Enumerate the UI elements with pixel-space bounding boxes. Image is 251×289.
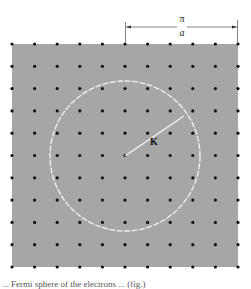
lattice-point: [214, 132, 217, 135]
lattice-point: [78, 243, 81, 246]
lattice-point: [169, 176, 172, 179]
lattice-point: [101, 176, 104, 179]
lattice-point: [236, 199, 239, 202]
lattice-point: [214, 42, 217, 45]
lattice-point: [101, 199, 104, 202]
lattice-point: [191, 199, 194, 202]
lattice-point: [78, 221, 81, 224]
lattice-point: [236, 221, 239, 224]
lattice-point: [33, 199, 36, 202]
lattice-point: [214, 65, 217, 68]
lattice-point: [78, 132, 81, 135]
lattice-point: [78, 199, 81, 202]
lattice-point: [123, 265, 126, 268]
lattice-point: [236, 109, 239, 112]
lattice-point: [78, 176, 81, 179]
lattice-point: [169, 42, 172, 45]
lattice-point: [191, 221, 194, 224]
lattice-point: [214, 87, 217, 90]
dimension-numerator: π: [176, 13, 188, 24]
lattice-point: [146, 87, 149, 90]
lattice-point: [10, 221, 13, 224]
lattice-point: [33, 176, 36, 179]
lattice-point: [169, 154, 172, 157]
lattice-point: [146, 199, 149, 202]
lattice-point: [236, 132, 239, 135]
lattice-point: [10, 132, 13, 135]
lattice-point: [146, 176, 149, 179]
lattice-point: [78, 87, 81, 90]
lattice-point: [191, 154, 194, 157]
lattice-point: [169, 87, 172, 90]
lattice-point: [146, 109, 149, 112]
lattice-point: [56, 243, 59, 246]
lattice-point: [146, 265, 149, 268]
lattice-point: [123, 243, 126, 246]
lattice-point: [169, 243, 172, 246]
lattice-point: [56, 221, 59, 224]
lattice-point: [56, 265, 59, 268]
lattice-point: [123, 176, 126, 179]
lattice-point: [56, 109, 59, 112]
lattice-point: [78, 65, 81, 68]
lattice-point: [169, 199, 172, 202]
lattice-point: [101, 87, 104, 90]
lattice-point: [123, 42, 126, 45]
lattice-point: [214, 154, 217, 157]
lattice-point: [56, 132, 59, 135]
lattice-point: [146, 132, 149, 135]
lattice-point: [78, 42, 81, 45]
lattice-point: [101, 109, 104, 112]
lattice-point: [236, 42, 239, 45]
lattice-point: [10, 65, 13, 68]
lattice-point: [123, 109, 126, 112]
lattice-point: [10, 154, 13, 157]
lattice-point: [191, 132, 194, 135]
lattice-point: [101, 65, 104, 68]
lattice-point: [123, 87, 126, 90]
lattice-point: [191, 87, 194, 90]
lattice-point: [10, 265, 13, 268]
lattice-point: [191, 243, 194, 246]
lattice-point: [33, 87, 36, 90]
lattice-point: [101, 42, 104, 45]
lattice-point: [101, 265, 104, 268]
lattice-point: [56, 176, 59, 179]
lattice-point: [123, 132, 126, 135]
lattice-point: [10, 87, 13, 90]
lattice-point: [10, 176, 13, 179]
lattice-point: [169, 221, 172, 224]
lattice-point: [33, 265, 36, 268]
lattice-point: [33, 109, 36, 112]
lattice-point: [169, 265, 172, 268]
arrowhead-right-icon: [232, 26, 237, 29]
lattice-point: [214, 221, 217, 224]
dimension-denominator: a: [176, 27, 188, 38]
lattice-point: [56, 87, 59, 90]
lattice-point: [236, 65, 239, 68]
lattice-point: [78, 109, 81, 112]
figure-caption: ... Fermi sphere of the electrons ... (f…: [2, 279, 145, 289]
lattice-point: [236, 243, 239, 246]
radius-label: K: [150, 136, 158, 147]
lattice-point: [146, 221, 149, 224]
lattice-point: [191, 176, 194, 179]
lattice-point: [123, 199, 126, 202]
lattice-point: [214, 109, 217, 112]
lattice-point: [146, 65, 149, 68]
lattice-point: [101, 221, 104, 224]
lattice-point: [191, 109, 194, 112]
lattice-point: [33, 65, 36, 68]
lattice-point: [123, 221, 126, 224]
lattice-point: [101, 154, 104, 157]
lattice-point: [214, 265, 217, 268]
lattice-point: [169, 65, 172, 68]
lattice-point: [191, 42, 194, 45]
lattice-point: [10, 109, 13, 112]
lattice-point: [78, 265, 81, 268]
lattice-point: [78, 154, 81, 157]
lattice-point: [236, 87, 239, 90]
lattice-point: [146, 42, 149, 45]
lattice-point: [214, 199, 217, 202]
